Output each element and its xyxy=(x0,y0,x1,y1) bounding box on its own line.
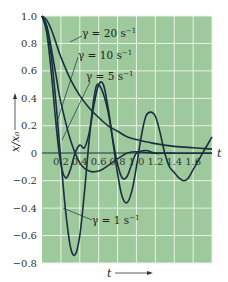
y-tick-label: 1.0 xyxy=(21,11,37,22)
damped-oscillation-chart: 1.00.80.60.40.20−0.2−0.4−0.6−0.8 0.20.40… xyxy=(0,0,228,282)
y-tick-label: −0.8 xyxy=(13,258,37,269)
y-axis-label-group: x/x₀ xyxy=(9,93,22,152)
y-tick-label: −0.2 xyxy=(13,175,37,186)
y-tick-label: 0.4 xyxy=(21,93,37,104)
x-tick-label: 0.6 xyxy=(91,156,107,167)
y-tick-label: 0 xyxy=(31,148,37,159)
y-tick-label: 0.2 xyxy=(21,120,37,131)
x-arrow-label: t xyxy=(107,267,112,280)
y-tick-label: −0.4 xyxy=(13,203,37,214)
x-tick-label: 1.2 xyxy=(147,156,163,167)
y-tick-label: 0.8 xyxy=(21,38,37,49)
y-tick-label: 0.6 xyxy=(21,65,37,76)
x-axis-end-label: t xyxy=(217,147,222,160)
x-arrow-group: t xyxy=(107,267,153,280)
y-tick-label: −0.6 xyxy=(13,230,37,241)
y-axis-label: x/x₀ xyxy=(9,131,22,152)
